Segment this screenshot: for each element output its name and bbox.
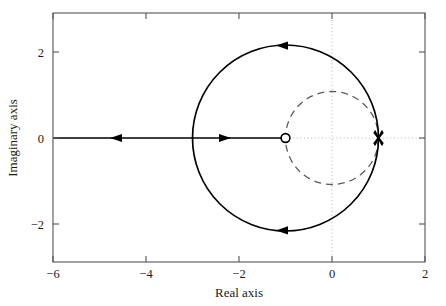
zero-marker bbox=[281, 134, 290, 143]
y-axis-title: Imaginary axis bbox=[5, 99, 20, 177]
x-tick-label: 2 bbox=[422, 267, 428, 281]
y-tick-label: −2 bbox=[31, 218, 44, 232]
root-locus-plot: −6 −4 −2 0 2 2 0 −2 Real axis Imaginary … bbox=[0, 0, 446, 306]
x-tick-label: −6 bbox=[46, 267, 59, 281]
y-tick-label: 2 bbox=[38, 46, 44, 60]
x-tick-label: −2 bbox=[232, 267, 245, 281]
root-locus-figure: −6 −4 −2 0 2 2 0 −2 Real axis Imaginary … bbox=[0, 0, 446, 306]
x-axis-title: Real axis bbox=[215, 285, 263, 300]
x-tick-label: 0 bbox=[329, 267, 335, 281]
y-tick-label: 0 bbox=[38, 132, 44, 146]
figure-background bbox=[0, 0, 446, 306]
x-tick-label: −4 bbox=[139, 267, 153, 281]
